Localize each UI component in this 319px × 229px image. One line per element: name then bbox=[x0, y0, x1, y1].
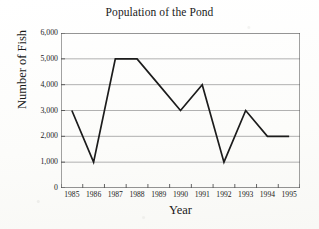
y-tick-label: 1,000 bbox=[24, 158, 58, 166]
y-axis-tick-labels: 01,0002,0003,0004,0005,0006,000 bbox=[20, 0, 58, 229]
chart-figure: Population of the Pond Number of Fish Ye… bbox=[0, 0, 319, 229]
plot-svg bbox=[61, 33, 300, 188]
y-tick-label: 5,000 bbox=[24, 55, 58, 63]
plot-area bbox=[61, 33, 300, 188]
y-tick-label: 0 bbox=[24, 184, 58, 192]
y-tick-label: 4,000 bbox=[24, 81, 58, 89]
y-tick-label: 6,000 bbox=[24, 29, 58, 37]
x-axis-tick-labels: 1985198619871988198919901991199219931994… bbox=[61, 190, 306, 202]
x-axis-tick-marks bbox=[61, 184, 300, 188]
y-tick-label: 2,000 bbox=[24, 132, 58, 140]
x-axis-title: Year bbox=[61, 203, 300, 218]
x-tick-label: 1995 bbox=[276, 190, 302, 199]
y-tick-label: 3,000 bbox=[24, 107, 58, 115]
